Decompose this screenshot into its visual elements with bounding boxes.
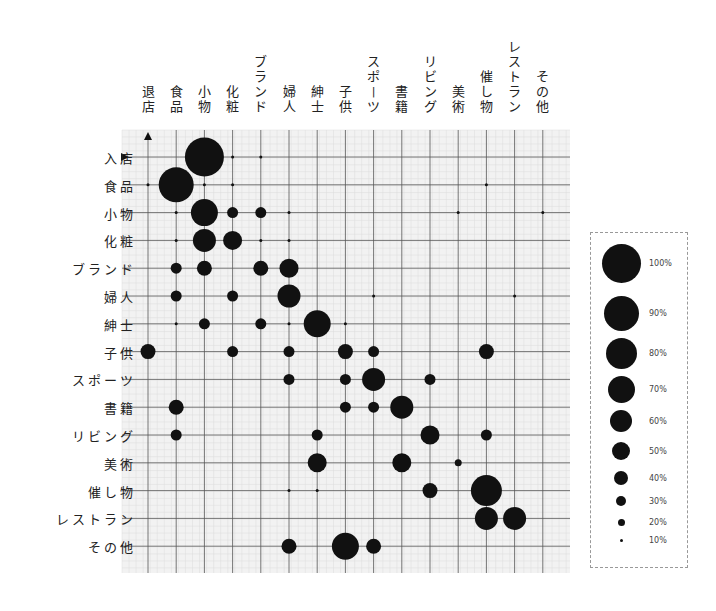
data-dot: [227, 346, 238, 357]
row-label: 紳士: [104, 315, 136, 334]
data-dot: [332, 533, 359, 560]
data-dot: [169, 400, 184, 415]
data-dot: [455, 459, 462, 466]
data-dot: [159, 167, 194, 202]
data-dot: [362, 368, 385, 391]
column-label: 食品: [166, 84, 186, 114]
legend-dot: [618, 519, 625, 526]
row-label: リビング: [72, 426, 136, 445]
row-label: 小物: [104, 204, 136, 223]
data-dot: [284, 374, 295, 385]
data-dot: [175, 211, 178, 214]
data-dot: [338, 344, 353, 359]
row-label: レストラン: [56, 509, 136, 528]
data-dot: [423, 483, 438, 498]
row-label: 子供: [104, 343, 136, 362]
data-dot: [227, 291, 238, 302]
data-dot: [485, 183, 488, 186]
row-label: ブランド: [72, 259, 136, 278]
data-dot: [479, 344, 494, 359]
data-dot: [288, 239, 291, 242]
data-dot: [175, 239, 178, 242]
data-dot: [255, 318, 266, 329]
data-dot: [197, 261, 212, 276]
column-label: 婦人: [279, 84, 299, 114]
data-dot: [288, 211, 291, 214]
data-dot: [304, 310, 331, 337]
data-dot: [368, 402, 379, 413]
legend-label: 30%: [649, 497, 667, 506]
legend-label: 70%: [649, 385, 667, 394]
data-dot: [185, 138, 224, 177]
column-label: 美術: [448, 84, 468, 114]
data-dot: [231, 156, 234, 159]
row-label: スポーツ: [72, 370, 136, 389]
data-dot: [147, 183, 150, 186]
legend-dot: [602, 244, 641, 283]
row-label: 書籍: [104, 398, 136, 417]
column-label: 小物: [194, 84, 214, 114]
data-dot: [471, 475, 502, 506]
data-dot: [191, 199, 218, 226]
data-dot: [340, 374, 351, 385]
data-dot: [425, 374, 436, 385]
data-dot: [481, 430, 492, 441]
data-dot: [141, 344, 156, 359]
legend-label: 40%: [649, 474, 667, 483]
legend-label: 50%: [649, 447, 667, 456]
column-label: レストラン: [505, 39, 525, 114]
row-label: 美術: [104, 454, 136, 473]
legend-label: 60%: [649, 417, 667, 426]
legend-dot: [612, 442, 630, 460]
legend-dot: [606, 338, 637, 369]
data-dot: [475, 507, 498, 530]
legend-dot: [614, 471, 628, 485]
data-dot: [171, 291, 182, 302]
column-label: 化粧: [223, 84, 243, 114]
data-dot: [280, 259, 299, 278]
data-dot: [253, 261, 268, 276]
data-dot: [203, 183, 206, 186]
column-label: その他: [533, 69, 553, 114]
column-label: 催し物: [476, 69, 496, 114]
data-dot: [175, 322, 178, 325]
column-label: リビング: [420, 54, 440, 114]
row-label: 食品: [104, 176, 136, 195]
row-label: 催し物: [88, 482, 136, 501]
row-label: その他: [88, 537, 136, 556]
legend-dot: [620, 539, 623, 542]
data-dot: [312, 430, 323, 441]
data-dot: [340, 402, 351, 413]
legend-dot: [610, 410, 632, 432]
data-dot: [344, 322, 347, 325]
data-dot: [503, 507, 526, 530]
row-label: 入店: [104, 148, 136, 167]
data-dot: [421, 426, 440, 445]
legend-label: 90%: [649, 309, 667, 318]
legend-label: 100%: [649, 259, 672, 268]
data-dot: [288, 322, 291, 325]
data-dot: [541, 211, 544, 214]
column-label: 紳士: [307, 84, 327, 114]
data-dot: [372, 295, 375, 298]
data-dot: [457, 211, 460, 214]
legend-dot: [616, 496, 626, 506]
legend-label: 80%: [649, 349, 667, 358]
data-dot: [282, 539, 297, 554]
row-label: 婦人: [104, 287, 136, 306]
legend-label: 10%: [649, 536, 667, 545]
data-dot: [223, 231, 242, 250]
data-dot: [316, 489, 319, 492]
data-dot: [278, 285, 301, 308]
data-dot: [259, 156, 262, 159]
data-dot: [199, 318, 210, 329]
legend-dot: [608, 376, 635, 403]
legend: 100%90%80%70%60%50%40%30%20%10%: [590, 232, 688, 568]
column-label: 退店: [138, 84, 158, 114]
data-dot: [259, 239, 262, 242]
data-dot: [284, 346, 295, 357]
data-dot: [171, 263, 182, 274]
data-dot: [390, 396, 413, 419]
column-label: スポ|ツ: [364, 54, 384, 114]
data-dot: [392, 453, 411, 472]
